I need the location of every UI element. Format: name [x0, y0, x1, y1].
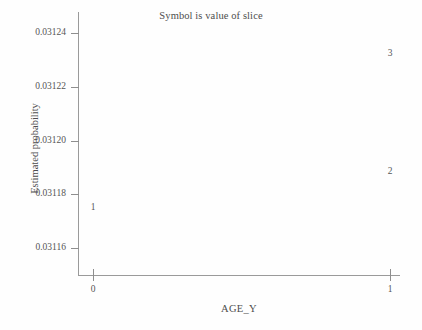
y-axis-title: Estimated probability [29, 69, 40, 229]
data-point-symbol: 1 [85, 203, 101, 213]
x-axis-line [78, 275, 400, 276]
y-tick-label: 0.03116 [2, 242, 66, 252]
y-tick-mark [71, 194, 79, 195]
chart-canvas: Symbol is value of slice 0.031160.031180… [0, 0, 422, 330]
data-point-symbol: 3 [382, 49, 398, 59]
plot-area: 123 [79, 12, 400, 275]
data-point-symbol: 2 [382, 167, 398, 177]
y-tick-mark [71, 33, 79, 34]
y-tick-mark [71, 141, 79, 142]
x-tick-label: 0 [78, 284, 108, 294]
y-tick-mark [71, 87, 79, 88]
x-tick-label: 1 [375, 284, 405, 294]
x-axis-title: AGE_Y [78, 303, 400, 314]
y-tick-mark [71, 248, 79, 249]
y-tick-label: 0.03124 [2, 27, 66, 37]
